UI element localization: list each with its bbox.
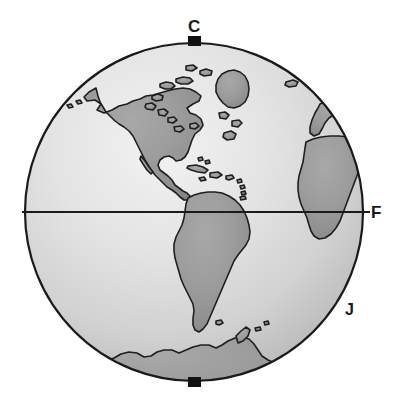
globe-figure: C F J bbox=[0, 0, 400, 415]
landmass-arctic-island-11 bbox=[174, 126, 184, 132]
landmass-arctic-island-2 bbox=[176, 77, 193, 84]
landmass-arctic-island-5 bbox=[158, 109, 168, 116]
landmass-jamaica bbox=[199, 177, 206, 181]
label-j-lower-right: J bbox=[345, 302, 354, 318]
axis-pin-bottom bbox=[188, 377, 201, 387]
landmass-newfoundland bbox=[223, 131, 236, 140]
landmass-arctic-island-9 bbox=[219, 112, 229, 119]
label-f-right: F bbox=[371, 204, 381, 221]
landmass-arctic-island-7 bbox=[200, 69, 212, 76]
axis-pin-top bbox=[188, 36, 201, 46]
label-c-top: C bbox=[188, 18, 200, 35]
landmass-arctic-island-4 bbox=[145, 103, 156, 110]
landmass-british-isles bbox=[317, 89, 333, 97]
landmass-trinidad bbox=[240, 196, 246, 200]
landmass-arctic-island-1 bbox=[160, 82, 175, 89]
landmass-puerto-rico bbox=[226, 175, 234, 180]
landmass-falkland-islands bbox=[216, 320, 223, 325]
globe-illustration bbox=[0, 0, 400, 415]
landmass-iceland bbox=[285, 80, 298, 87]
landmass-arctic-island-3 bbox=[152, 94, 163, 101]
